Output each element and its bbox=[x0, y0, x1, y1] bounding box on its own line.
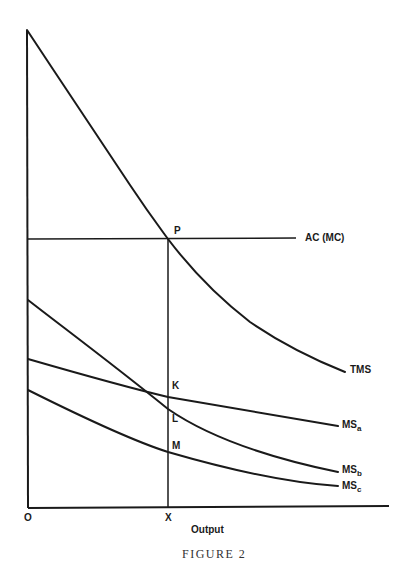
y-axis bbox=[27, 30, 28, 508]
msa-curve bbox=[28, 359, 338, 426]
msc-label-main: MS bbox=[342, 480, 357, 491]
point-k-label: K bbox=[172, 381, 179, 391]
msc-curve bbox=[28, 390, 338, 486]
msa-label: MSa bbox=[342, 420, 361, 433]
tms-label: TMS bbox=[350, 365, 371, 375]
point-p-label: P bbox=[174, 226, 181, 236]
x-axis-title: Output bbox=[191, 525, 224, 535]
point-m-label: M bbox=[172, 441, 180, 451]
msb-label-main: MS bbox=[342, 464, 357, 475]
msa-label-main: MS bbox=[342, 419, 357, 430]
ac-mc-label: AC (MC) bbox=[305, 233, 344, 243]
msb-curve bbox=[28, 300, 338, 472]
x-point-label: X bbox=[165, 513, 172, 523]
msc-label: MSc bbox=[342, 481, 361, 494]
point-l-label: L bbox=[172, 414, 178, 424]
figure-caption: FIGURE 2 bbox=[182, 548, 246, 560]
x-axis bbox=[28, 506, 389, 508]
tms-curve bbox=[27, 30, 345, 372]
msb-label-sub: b bbox=[357, 469, 362, 478]
msa-label-sub: a bbox=[357, 424, 361, 433]
figure-2-diagram: P AC (MC) TMS MSa MSb MSc K L M O X Outp… bbox=[0, 0, 410, 568]
ac-mc-line bbox=[28, 238, 296, 239]
msc-label-sub: c bbox=[357, 485, 361, 494]
msb-label: MSb bbox=[342, 465, 362, 478]
origin-label: O bbox=[24, 513, 32, 523]
